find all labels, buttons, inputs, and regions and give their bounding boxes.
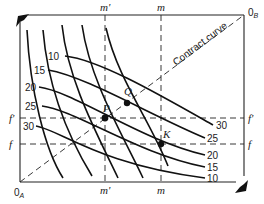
edgeworth-box-diagram: P Q K m' m m' m f' f f' f 0A 0B Contract… (0, 0, 264, 204)
label-p: P (102, 102, 110, 114)
label-f-right: f (248, 138, 253, 150)
label-b-15: 15 (207, 162, 219, 173)
label-q: Q (124, 85, 132, 97)
contract-curve-label: Contract curve (171, 19, 230, 67)
label-m-prime-top: m' (100, 1, 111, 13)
indifference-curve-a-25 (42, 106, 205, 167)
label-m-prime-bottom: m' (100, 184, 111, 196)
label-a-25: 25 (25, 101, 37, 112)
indifference-curve-a-10 (65, 56, 213, 125)
label-f-prime-left: f' (9, 112, 15, 124)
label-a-10: 10 (48, 51, 60, 62)
label-b-10: 10 (207, 173, 219, 184)
origin-a-label: 0A (14, 187, 25, 199)
label-f-prime-right: f' (248, 112, 254, 124)
point-p (102, 115, 109, 122)
point-k (158, 141, 164, 147)
point-q (124, 100, 130, 106)
label-a-15: 15 (34, 65, 46, 76)
origin-b-label: 0B (248, 7, 259, 19)
label-a-20: 20 (25, 82, 37, 93)
arrow-top-left-icon (16, 14, 29, 27)
label-k: K (162, 128, 171, 140)
label-b-20: 20 (207, 150, 219, 161)
label-f-left: f (9, 138, 14, 150)
label-m-top: m (157, 1, 165, 13)
label-b-25: 25 (207, 133, 219, 144)
arrow-bottom-right-icon (235, 180, 248, 193)
label-m-bottom: m (157, 184, 165, 196)
label-a-30: 30 (23, 121, 35, 132)
label-b-30: 30 (216, 120, 228, 131)
